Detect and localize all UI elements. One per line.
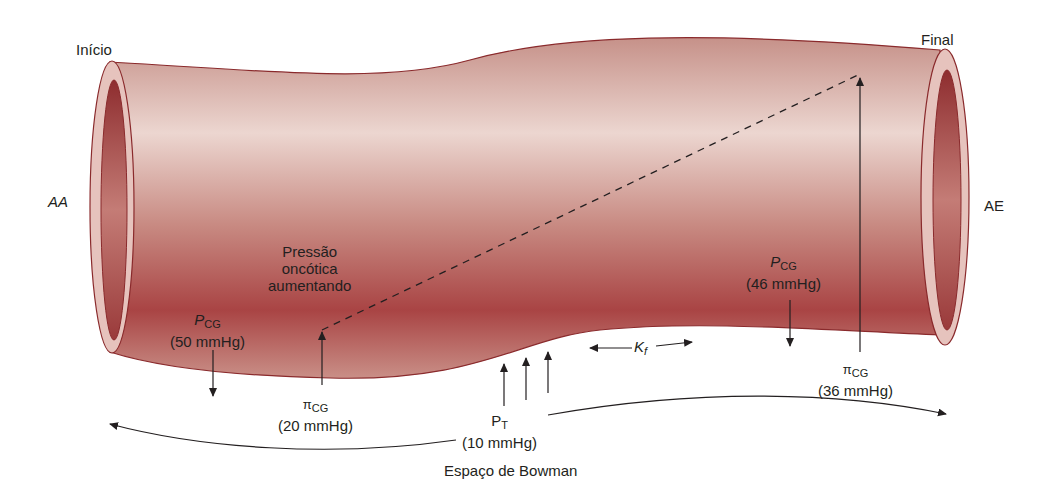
pt-label: PT (10 mmHg) (462, 412, 537, 451)
picg-end-label: πCG (36 mmHg) (818, 360, 893, 399)
label-end: Final (921, 31, 954, 48)
picg-start-label: πCG (20 mmHg) (278, 395, 353, 434)
oncotic-note-line3: aumentando (268, 277, 351, 294)
pcg-end-label: PCG (46 mmHg) (746, 253, 821, 292)
pcg-start-label: PCG (50 mmHg) (170, 311, 245, 350)
pt-arrows (504, 352, 548, 406)
label-start: Início (76, 41, 112, 58)
oncotic-note-line1: Pressão (268, 243, 351, 260)
label-afferent-arteriole: AA (48, 193, 68, 210)
bowman-space-label: Espaço de Bowman (444, 462, 577, 479)
oncotic-note-line2: oncótica (268, 260, 351, 277)
oncotic-note: Pressão oncótica aumentando (268, 243, 351, 294)
kf-label: Kf (634, 338, 647, 360)
afferent-opening (90, 61, 134, 353)
label-efferent-arteriole: AE (984, 197, 1004, 214)
efferent-opening (921, 49, 969, 345)
